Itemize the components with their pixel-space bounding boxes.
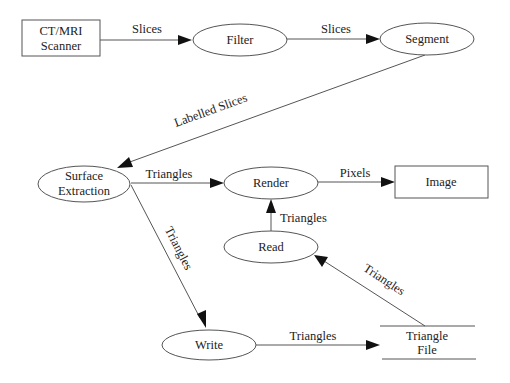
svg-text:Scanner: Scanner bbox=[41, 39, 82, 53]
arrowhead-icon bbox=[366, 34, 380, 44]
arrowhead-icon bbox=[210, 178, 224, 188]
node-read: Read bbox=[224, 231, 318, 263]
svg-text:Triangle: Triangle bbox=[406, 329, 448, 343]
node-ct-mri-scanner: CT/MRI Scanner bbox=[22, 20, 100, 56]
node-segment: Segment bbox=[380, 23, 474, 55]
svg-text:Extraction: Extraction bbox=[58, 184, 111, 198]
edge-label: Triangles bbox=[361, 261, 408, 298]
edge-scanner-filter: Slices bbox=[100, 22, 192, 45]
svg-text:Image: Image bbox=[425, 175, 457, 189]
edge-write-file: Triangles bbox=[256, 329, 380, 350]
arrowhead-icon bbox=[366, 340, 380, 350]
edge-label: Slices bbox=[132, 22, 162, 36]
node-image: Image bbox=[395, 166, 488, 198]
pipeline-diagram: Slices Slices Labelled Slices Triangles … bbox=[0, 0, 510, 383]
edge-segment-surface: Labelled Slices bbox=[117, 55, 425, 168]
node-triangle-file: Triangle File bbox=[380, 326, 476, 359]
edge-read-render: Triangles bbox=[266, 199, 327, 231]
svg-text:Surface: Surface bbox=[65, 169, 104, 183]
arrowhead-icon bbox=[117, 157, 133, 168]
svg-text:CT/MRI: CT/MRI bbox=[39, 24, 82, 38]
node-surface-extraction: Surface Extraction bbox=[38, 166, 130, 202]
node-filter: Filter bbox=[193, 24, 287, 56]
arrowhead-icon bbox=[381, 177, 395, 187]
edge-label: Labelled Slices bbox=[172, 91, 249, 130]
svg-text:Render: Render bbox=[253, 176, 290, 190]
svg-text:Write: Write bbox=[195, 338, 223, 352]
svg-text:Segment: Segment bbox=[405, 32, 449, 46]
arrowhead-icon bbox=[266, 199, 276, 213]
edge-label: Pixels bbox=[340, 166, 371, 180]
node-render: Render bbox=[224, 167, 318, 199]
arrowhead-icon bbox=[197, 310, 206, 328]
edge-filter-segment: Slices bbox=[287, 22, 380, 44]
edge-render-image: Pixels bbox=[318, 166, 395, 187]
node-write: Write bbox=[162, 330, 256, 360]
arrowhead-icon bbox=[314, 255, 328, 267]
edge-label: Triangles bbox=[280, 211, 327, 225]
svg-text:Read: Read bbox=[258, 240, 284, 254]
edge-surface-write: Triangles bbox=[131, 185, 206, 328]
edge-label: Triangles bbox=[290, 329, 337, 343]
edge-label: Triangles bbox=[146, 167, 193, 181]
svg-text:Filter: Filter bbox=[226, 33, 254, 47]
edge-label: Triangles bbox=[162, 224, 196, 272]
edge-label: Slices bbox=[321, 22, 351, 36]
arrowhead-icon bbox=[178, 35, 192, 45]
svg-text:File: File bbox=[417, 343, 437, 357]
edge-file-read: Triangles bbox=[314, 255, 425, 326]
edge-surface-render: Triangles bbox=[131, 167, 224, 188]
